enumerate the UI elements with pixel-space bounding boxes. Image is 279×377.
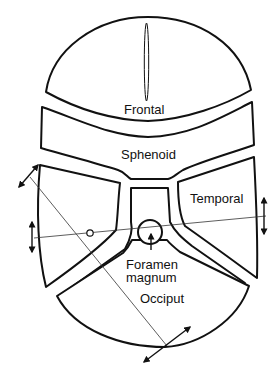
temporal-label: Temporal [190, 192, 243, 206]
foramen-magnum [138, 220, 162, 244]
skull-bones-diagram [0, 0, 279, 377]
occiput-label: Occiput [140, 292, 184, 306]
pivot-point-icon [87, 230, 93, 236]
sphenoid-label: Sphenoid [121, 148, 176, 162]
frontal-slit [144, 23, 148, 101]
magnum-label: magnum [126, 271, 177, 285]
frontal-label: Frontal [124, 103, 164, 117]
